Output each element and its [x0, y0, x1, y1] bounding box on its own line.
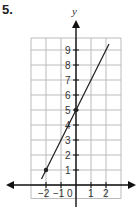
- x-tick-label: −1: [53, 188, 65, 199]
- y-tick-label: 3: [65, 135, 71, 146]
- y-tick-label: 2: [65, 150, 71, 161]
- x-axis-left-arrow-icon: [6, 181, 14, 189]
- plotted-point: [74, 108, 78, 112]
- x-tick-label: 0: [67, 188, 73, 199]
- x-tick-label: 2: [103, 188, 109, 199]
- coordinate-plane-chart: y123456789−2−1012: [0, 0, 140, 209]
- x-axis-right-arrow-icon: [128, 181, 136, 189]
- x-tick-label: −2: [38, 188, 50, 199]
- y-tick-label: 1: [65, 165, 71, 176]
- y-axis-arrow-icon: [72, 20, 80, 28]
- plotted-point: [44, 168, 48, 172]
- y-tick-label: 6: [65, 90, 71, 101]
- y-axis-label: y: [71, 5, 77, 17]
- x-tick-label: 1: [88, 188, 94, 199]
- y-tick-label: 7: [65, 75, 71, 86]
- y-tick-label: 5: [65, 105, 71, 116]
- y-tick-label: 8: [65, 60, 71, 71]
- y-tick-label: 9: [65, 45, 71, 56]
